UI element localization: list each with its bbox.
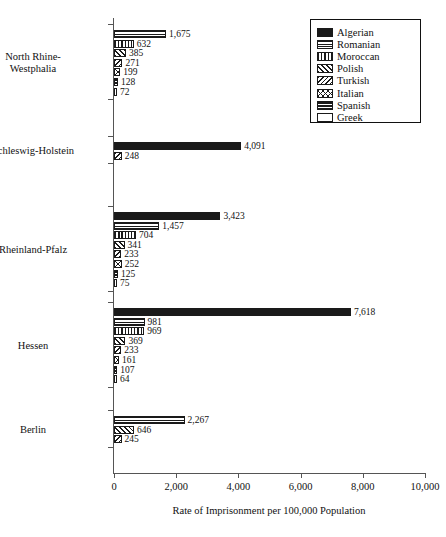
group-label: Hessen <box>0 340 88 352</box>
bar-polish <box>114 337 125 345</box>
bar-spanish <box>114 366 117 374</box>
y-tick <box>108 24 114 25</box>
bar-algerian <box>114 308 351 316</box>
bar-row: 341 <box>114 241 444 250</box>
bar-value-label: 107 <box>120 365 134 375</box>
group-label: Rheinland-Pfalz <box>0 244 88 256</box>
x-axis-line <box>113 473 425 474</box>
legend-swatch-icon <box>317 64 333 73</box>
y-tick <box>108 387 114 388</box>
bar-value-label: 632 <box>137 39 151 49</box>
imprisonment-rate-bar-chart: 02,0004,0006,0008,00010,000 North Rhine-… <box>0 0 446 537</box>
bar-moroccan <box>114 327 144 335</box>
bar-row: 7,618 <box>114 308 444 317</box>
bar-value-label: 981 <box>148 317 162 327</box>
bar-value-label: 969 <box>147 326 161 336</box>
bar-row: 233 <box>114 250 444 259</box>
legend-item-polish[interactable]: Polish <box>317 63 363 75</box>
bar-row: 245 <box>114 435 444 444</box>
group-label-line: Westphalia <box>0 63 88 75</box>
bar-turkish <box>114 59 122 67</box>
bar-row: 969 <box>114 327 444 336</box>
x-tick <box>363 473 364 478</box>
bar-romanian <box>114 30 166 38</box>
bar-value-label: 1,675 <box>169 29 190 39</box>
bar-row: 161 <box>114 356 444 365</box>
legend-swatch-icon <box>317 40 333 49</box>
bar-value-label: 7,618 <box>354 307 375 317</box>
bar-row: 125 <box>114 270 444 279</box>
group-label-line: North Rhine- <box>0 51 88 63</box>
legend-item-turkish[interactable]: Turkish <box>317 75 369 87</box>
bar-value-label: 128 <box>121 77 135 87</box>
bar-value-label: 341 <box>128 240 142 250</box>
bar-romanian <box>114 416 185 424</box>
x-tick-label: 4,000 <box>208 481 268 492</box>
legend: AlgerianRomanianMoroccanPolishTurkishIta… <box>310 19 421 123</box>
legend-item-moroccan[interactable]: Moroccan <box>317 50 380 62</box>
bar-row: 252 <box>114 260 444 269</box>
group-label: Schleswig-Holstein <box>0 145 88 157</box>
bar-turkish <box>114 250 121 258</box>
bar-value-label: 646 <box>137 425 151 435</box>
bar-italian <box>114 260 122 268</box>
group-label: Berlin <box>0 424 88 436</box>
bar-row: 233 <box>114 346 444 355</box>
legend-item-algerian[interactable]: Algerian <box>317 26 374 38</box>
bar-value-label: 245 <box>125 434 139 444</box>
legend-label: Polish <box>337 63 363 74</box>
bar-greek <box>114 88 117 96</box>
y-tick <box>108 136 114 137</box>
bar-algerian <box>114 212 220 220</box>
legend-label: Romanian <box>337 39 380 50</box>
bar-romanian <box>114 222 159 230</box>
bar-greek <box>114 279 117 287</box>
y-tick <box>108 291 114 292</box>
legend-label: Italian <box>337 88 364 99</box>
legend-swatch-icon <box>317 113 333 122</box>
legend-item-italian[interactable]: Italian <box>317 87 364 99</box>
legend-item-spanish[interactable]: Spanish <box>317 99 370 111</box>
bar-row: 75 <box>114 279 444 288</box>
group-label: North Rhine-Westphalia <box>0 51 88 74</box>
y-tick <box>108 206 114 207</box>
legend-label: Greek <box>337 112 363 123</box>
legend-item-greek[interactable]: Greek <box>317 111 363 123</box>
bar-group: Berlin2,267646245 <box>0 416 446 445</box>
bar-greek <box>114 375 117 383</box>
bar-value-label: 271 <box>125 58 139 68</box>
bar-value-label: 1,457 <box>162 221 183 231</box>
x-tick <box>301 473 302 478</box>
bar-turkish <box>114 435 122 443</box>
bar-row: 369 <box>114 337 444 346</box>
legend-label: Algerian <box>337 27 374 38</box>
bar-algerian <box>114 142 241 150</box>
legend-item-romanian[interactable]: Romanian <box>317 38 380 50</box>
legend-label: Turkish <box>337 75 369 86</box>
y-tick <box>108 163 114 164</box>
legend-swatch-icon <box>317 89 333 98</box>
group-label-line: Schleswig-Holstein <box>0 145 88 157</box>
bar-row: 646 <box>114 426 444 435</box>
bar-value-label: 4,091 <box>244 141 265 151</box>
bar-row: 981 <box>114 318 444 327</box>
bar-value-label: 385 <box>129 48 143 58</box>
bar-spanish <box>114 270 118 278</box>
legend-swatch-icon <box>317 52 333 61</box>
x-tick <box>114 473 115 478</box>
y-tick <box>108 447 114 448</box>
x-tick-label: 8,000 <box>333 481 393 492</box>
bar-value-label: 199 <box>123 67 137 77</box>
bar-value-label: 64 <box>120 374 130 384</box>
y-tick <box>108 99 114 100</box>
bar-polish <box>114 241 125 249</box>
bar-value-label: 3,423 <box>223 211 244 221</box>
x-tick-label: 6,000 <box>271 481 331 492</box>
bar-row: 2,267 <box>114 416 444 425</box>
legend-swatch-icon <box>317 101 333 110</box>
bar-value-label: 161 <box>122 355 136 365</box>
bar-row: 1,457 <box>114 222 444 231</box>
bar-value-label: 704 <box>139 230 153 240</box>
group-label-line: Hessen <box>0 340 88 352</box>
legend-swatch-icon <box>317 28 333 37</box>
